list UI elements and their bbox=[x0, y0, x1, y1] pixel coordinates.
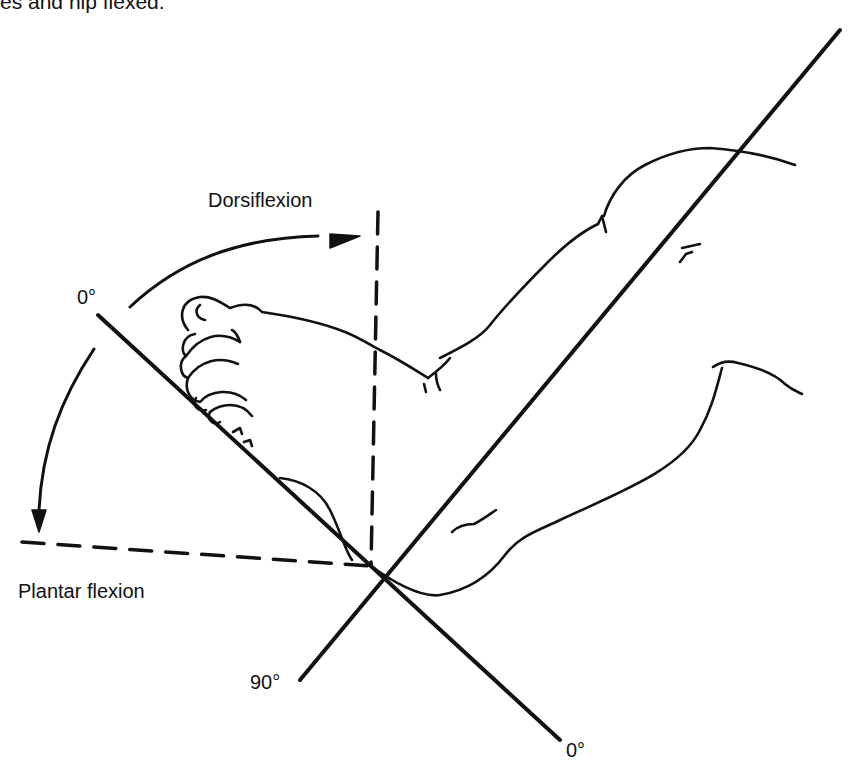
dorsiflexion-arc bbox=[130, 236, 318, 307]
dorsiflexion-label: Dorsiflexion bbox=[208, 190, 312, 210]
plantar-dashed-line bbox=[22, 542, 371, 566]
dorsiflexion-arrowhead bbox=[330, 234, 360, 248]
foot-axis-line bbox=[98, 315, 560, 740]
plantar-flexion-label: Plantar flexion bbox=[18, 581, 145, 601]
zero-degree-upper-label: 0° bbox=[77, 287, 96, 307]
zero-degree-lower-label: 0° bbox=[566, 740, 585, 760]
plantar-flexion-arc bbox=[39, 349, 94, 510]
ankle-rom-figure: es and hip flexed. bbox=[0, 0, 858, 777]
neutral-dashed-line bbox=[371, 212, 378, 566]
plantar-arrowhead bbox=[32, 510, 46, 532]
ninety-degree-label: 90° bbox=[250, 672, 280, 692]
foot-outline bbox=[181, 148, 802, 595]
ankle-diagram bbox=[0, 0, 858, 777]
leg-axis-line bbox=[300, 30, 840, 680]
